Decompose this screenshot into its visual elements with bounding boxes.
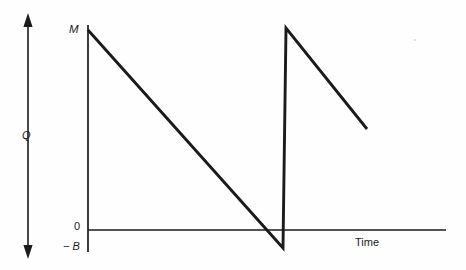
label-time-axis: Time — [355, 237, 379, 248]
label-max-level: M — [69, 24, 79, 36]
label-quantity-axis: Q — [22, 130, 31, 141]
q-arrow-head-up — [23, 13, 32, 27]
label-min-level: − B — [63, 241, 80, 252]
chart-canvas — [0, 0, 466, 270]
inventory-level-series — [88, 28, 367, 248]
q-arrow-head-down — [23, 245, 32, 259]
label-zero: 0 — [74, 221, 80, 232]
scan-speck — [414, 39, 416, 41]
